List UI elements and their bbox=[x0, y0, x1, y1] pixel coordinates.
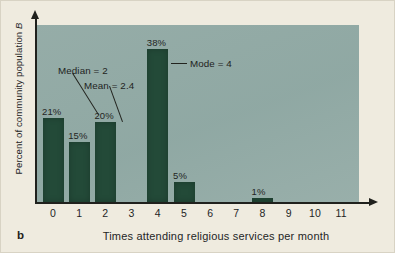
x-tick-8: 8 bbox=[253, 207, 273, 219]
bar-category-5 bbox=[174, 182, 195, 202]
x-axis-line bbox=[35, 202, 371, 204]
panel-label: b bbox=[17, 229, 24, 241]
figure-container: 21%15%20%38%5%1% 01234567891011 Median =… bbox=[0, 0, 395, 253]
x-tick-7: 7 bbox=[226, 207, 246, 219]
bar-value-label-0: 21% bbox=[42, 106, 61, 117]
bar-category-0 bbox=[43, 118, 64, 202]
bar-value-label-1: 15% bbox=[68, 130, 87, 141]
x-tick-3: 3 bbox=[122, 207, 142, 219]
x-axis-title: Times attending religious services per m… bbox=[61, 230, 371, 242]
x-axis-arrowhead bbox=[369, 198, 378, 206]
y-axis-title-text: Percent of community population bbox=[13, 29, 24, 175]
x-tick-10: 10 bbox=[305, 207, 325, 219]
bar-category-1 bbox=[69, 142, 90, 202]
mode-annotation: Mode = 4 bbox=[190, 58, 232, 69]
median-annotation: Median = 2 bbox=[58, 65, 108, 76]
x-tick-0: 0 bbox=[43, 207, 63, 219]
bar-category-4 bbox=[147, 49, 168, 202]
x-tick-1: 1 bbox=[69, 207, 89, 219]
bar-category-2 bbox=[95, 122, 116, 202]
bar-category-8 bbox=[252, 198, 273, 202]
x-tick-2: 2 bbox=[95, 207, 115, 219]
x-tick-9: 9 bbox=[279, 207, 299, 219]
x-tick-6: 6 bbox=[200, 207, 220, 219]
bar-value-label-4: 38% bbox=[147, 37, 166, 48]
x-tick-11: 11 bbox=[331, 207, 351, 219]
y-axis-arrowhead bbox=[31, 10, 39, 19]
y-axis-variable-symbol: B bbox=[13, 22, 24, 29]
y-axis-title: Percent of community population B bbox=[13, 4, 24, 194]
mode-leader-line bbox=[171, 63, 187, 64]
bar-value-label-5: 5% bbox=[173, 170, 187, 181]
x-tick-5: 5 bbox=[174, 207, 194, 219]
mean-annotation: Mean = 2.4 bbox=[84, 80, 134, 91]
x-tick-4: 4 bbox=[148, 207, 168, 219]
bar-value-label-8: 1% bbox=[252, 186, 266, 197]
y-axis-line bbox=[35, 17, 37, 203]
